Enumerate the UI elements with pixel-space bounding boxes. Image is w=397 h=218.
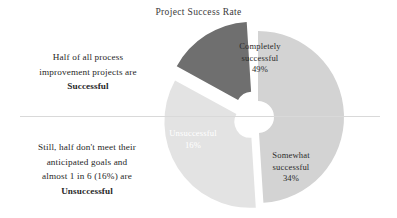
caption-emphasis: Unsuccessful [4,184,170,199]
slice-label-name: Completely [218,41,302,53]
slice-label-name: successful [249,162,333,174]
caption-successful: Half of all process improvement projects… [8,50,168,94]
slice-label-value: 34% [249,173,333,185]
caption-line: improvement projects are [8,65,168,80]
caption-line: almost 1 in 6 (16%) are [4,169,170,184]
slice-label-value: 16% [150,140,236,152]
section-divider [20,116,380,117]
slice-label-value: 49% [218,64,302,76]
caption-emphasis: Successful [8,79,168,94]
caption-unsuccessful: Still, half don't meet their anticipated… [4,140,170,198]
caption-line: Half of all process [8,50,168,65]
caption-line: Still, half don't meet their [4,140,170,155]
slice-label-completely-successful: Completely successful 49% [218,41,302,76]
caption-line: anticipated goals and [4,155,170,170]
slice-label-name: Unsuccessful [150,128,236,140]
slice-label-unsuccessful: Unsuccessful 16% [150,128,236,151]
slice-label-name: Somewhat [249,150,333,162]
slice-label-somewhat-successful: Somewhat successful 34% [249,150,333,185]
infographic-canvas: Project Success Rate Half of all process… [0,0,397,218]
slice-label-name: successful [218,53,302,65]
